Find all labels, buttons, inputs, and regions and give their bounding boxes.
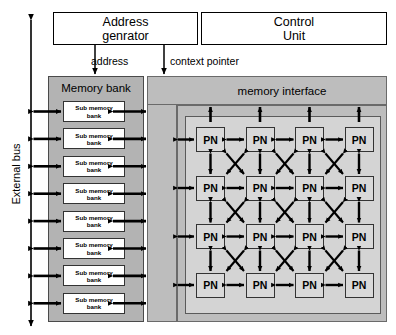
memory-interface-band[interactable]	[147, 76, 387, 105]
pn-node[interactable]: PN	[196, 224, 225, 249]
sub-memory-bank[interactable]: Sub memorybank	[63, 156, 125, 177]
sub-memory-bank-line1: Sub memory	[75, 159, 112, 166]
pn-node[interactable]: PN	[295, 127, 324, 152]
sub-memory-bank[interactable]: Sub memorybank	[63, 211, 125, 232]
pn-node[interactable]: PN	[196, 127, 225, 152]
address-generator-line2: genrator	[102, 29, 149, 43]
sub-memory-bank-line2: bank	[87, 276, 101, 283]
sub-memory-bank-line1: Sub memory	[75, 104, 112, 111]
pn-node[interactable]: PN	[295, 273, 324, 298]
address-generator-line1: Address	[102, 15, 149, 29]
pn-node[interactable]: PN	[345, 224, 374, 249]
sub-memory-bank[interactable]: Sub memorybank	[63, 183, 125, 204]
control-unit-line1: Control	[274, 15, 314, 29]
pn-node[interactable]: PN	[246, 273, 275, 298]
sub-memory-bank[interactable]: Sub memorybank	[63, 101, 125, 122]
sub-memory-bank-line2: bank	[87, 249, 101, 256]
pn-node[interactable]: PN	[295, 176, 324, 201]
context-pointer-bus	[147, 76, 177, 322]
address-generator-label: Address genrator	[102, 15, 149, 43]
pn-node[interactable]: PN	[246, 224, 275, 249]
pn-node[interactable]: PN	[246, 176, 275, 201]
sub-memory-bank-line1: Sub memory	[75, 214, 112, 221]
pn-node[interactable]: PN	[345, 176, 374, 201]
sub-memory-bank-line1: Sub memory	[75, 187, 112, 194]
external-bus-label: External bus	[10, 134, 22, 214]
pn-node[interactable]: PN	[196, 273, 225, 298]
pn-node[interactable]: PN	[295, 224, 324, 249]
sub-memory-bank-line2: bank	[87, 303, 101, 310]
sub-memory-bank[interactable]: Sub memorybank	[63, 265, 125, 286]
sub-memory-bank-line1: Sub memory	[75, 296, 112, 303]
sub-memory-bank-line1: Sub memory	[75, 269, 112, 276]
memory-bank-title: Memory bank	[50, 79, 142, 96]
control-unit-label: Control Unit	[274, 15, 314, 43]
diagram-canvas: Address genrator Control Unit address co…	[0, 0, 396, 335]
sub-memory-bank-line2: bank	[87, 139, 101, 146]
sub-memory-bank-line2: bank	[87, 194, 101, 201]
sub-memory-bank-line2: bank	[87, 166, 101, 173]
sub-memory-bank-line2: bank	[87, 221, 101, 228]
control-unit-box[interactable]: Control Unit	[201, 12, 387, 45]
address-generator-box[interactable]: Address genrator	[53, 12, 198, 45]
pn-node[interactable]: PN	[246, 127, 275, 152]
sub-memory-bank[interactable]: Sub memorybank	[63, 128, 125, 149]
sub-memory-bank-line1: Sub memory	[75, 132, 112, 139]
sub-memory-bank[interactable]: Sub memorybank	[63, 293, 125, 314]
control-unit-line2: Unit	[274, 29, 314, 43]
sub-memory-bank-line2: bank	[87, 112, 101, 119]
context-pointer-signal-label: context pointer	[170, 55, 239, 67]
pn-node[interactable]: PN	[345, 127, 374, 152]
pn-node[interactable]: PN	[345, 273, 374, 298]
address-signal-label: address	[91, 55, 128, 67]
sub-memory-bank[interactable]: Sub memorybank	[63, 238, 125, 259]
sub-memory-bank-line1: Sub memory	[75, 241, 112, 248]
pn-node[interactable]: PN	[196, 176, 225, 201]
